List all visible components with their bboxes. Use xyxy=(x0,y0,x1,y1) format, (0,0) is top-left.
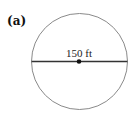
center-point-icon xyxy=(77,59,82,64)
diameter-label: 150 ft xyxy=(66,47,92,59)
panel-label: (a) xyxy=(7,14,26,28)
circle-diagram: (a) 150 ft xyxy=(0,0,136,121)
